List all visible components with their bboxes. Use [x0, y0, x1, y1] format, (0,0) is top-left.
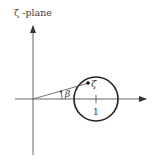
ray-to-zeta [33, 84, 87, 100]
diagram-svg: ζ β 1 [0, 0, 153, 163]
zeta-plane-diagram: ζ -plane ζ β 1 [0, 0, 153, 163]
zeta-point [86, 81, 90, 85]
beta-label: β [64, 89, 70, 99]
zeta-label: ζ [91, 78, 97, 89]
unit-label: 1 [93, 107, 99, 117]
